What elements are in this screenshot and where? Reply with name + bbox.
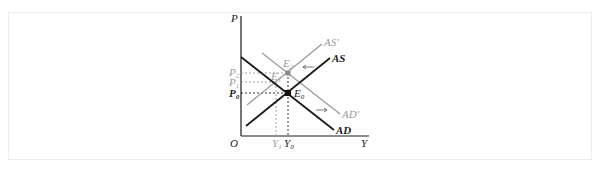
e1-label: E1 xyxy=(270,70,281,84)
arrow-right-icon xyxy=(316,108,327,112)
equilibrium-points xyxy=(285,71,291,97)
y0-label: Y0 xyxy=(284,137,294,151)
e2-marker xyxy=(286,71,291,76)
y-axis-label: P xyxy=(230,12,238,24)
as-prime-label: AS' xyxy=(323,36,339,48)
ad-prime-label: AD' xyxy=(341,108,360,120)
origin-label: O xyxy=(230,137,238,149)
e2-label: E2 xyxy=(282,57,294,71)
arrow-left-icon xyxy=(303,65,314,69)
curves xyxy=(241,44,340,130)
y1-label: Y1 xyxy=(272,137,282,151)
e0-label: E0 xyxy=(293,87,305,101)
as-label: AS xyxy=(331,52,345,64)
e0-marker xyxy=(285,90,291,96)
ad-as-diagram: P Y O P2 P1 P0 Y1 Y0 E2 E1 E0 AS' AS AD'… xyxy=(0,0,601,169)
x-axis-label: Y xyxy=(361,137,369,149)
ad-label: AD xyxy=(335,124,351,136)
